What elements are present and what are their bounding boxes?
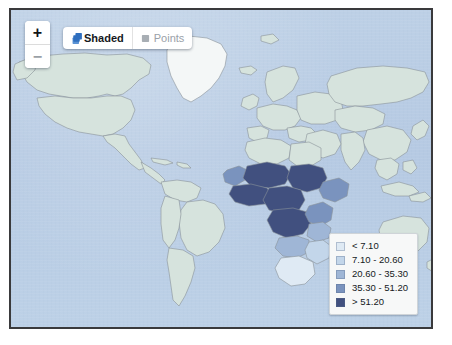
country-central-america bbox=[141, 162, 165, 184]
region-drc-congo bbox=[267, 208, 311, 238]
legend-row: < 7.10 bbox=[336, 239, 408, 253]
legend-row: 35.30 - 51.20 bbox=[336, 281, 408, 295]
zoom-in-button[interactable]: + bbox=[25, 21, 50, 45]
legend-swatch bbox=[336, 242, 345, 251]
country-peru-bolivia bbox=[161, 196, 181, 248]
map-frame: + − Shaded Points bbox=[9, 8, 433, 329]
legend-row: > 51.20 bbox=[336, 295, 408, 309]
legend-label: 20.60 - 35.30 bbox=[352, 269, 408, 279]
zoom-control[interactable]: + − bbox=[25, 21, 50, 68]
legend-label: 35.30 - 51.20 bbox=[352, 283, 408, 293]
country-morocco-algeria bbox=[245, 138, 291, 164]
island-iceland bbox=[239, 66, 257, 75]
legend-row: 7.10 - 20.60 bbox=[336, 253, 408, 267]
island-philippines bbox=[403, 160, 417, 174]
tab-points-label: Points bbox=[154, 32, 185, 44]
country-uk-ireland bbox=[241, 94, 259, 110]
country-libya-egypt bbox=[289, 142, 321, 166]
country-russia bbox=[327, 66, 429, 106]
country-brazil bbox=[179, 200, 225, 256]
region-southern-africa bbox=[275, 256, 315, 286]
country-argentina-chile bbox=[167, 248, 195, 306]
island-japan bbox=[411, 120, 429, 140]
legend-label: < 7.10 bbox=[352, 241, 379, 251]
island-cuba bbox=[151, 158, 173, 165]
region-tanzania bbox=[307, 222, 331, 242]
tab-points[interactable]: Points bbox=[132, 27, 193, 49]
island-caribbean bbox=[177, 162, 191, 168]
tab-shaded[interactable]: Shaded bbox=[63, 27, 132, 49]
country-india bbox=[341, 132, 365, 170]
shaded-squares-icon bbox=[73, 35, 79, 41]
country-usa bbox=[37, 96, 135, 136]
legend-swatch bbox=[336, 270, 345, 279]
point-square-icon bbox=[142, 34, 149, 41]
layer-toggle[interactable]: Shaded Points bbox=[63, 27, 192, 49]
region-western-europe bbox=[257, 104, 301, 130]
country-china bbox=[363, 126, 411, 160]
region-angola-zambia bbox=[275, 236, 309, 258]
island-svalbard bbox=[261, 34, 279, 44]
region-scandinavia bbox=[265, 66, 299, 102]
legend-swatch bbox=[336, 256, 345, 265]
map-canvas[interactable]: + − Shaded Points bbox=[11, 10, 431, 327]
region-southeast-asia bbox=[375, 158, 399, 180]
legend-swatch bbox=[336, 298, 345, 307]
legend: < 7.10 7.10 - 20.60 20.60 - 35.30 35.30 … bbox=[329, 233, 418, 315]
screenshot-root: + − Shaded Points bbox=[0, 0, 452, 345]
island-new-zealand bbox=[427, 258, 431, 272]
minus-icon: − bbox=[33, 49, 42, 65]
zoom-out-button[interactable]: − bbox=[25, 45, 50, 68]
region-ethiopia-horn bbox=[319, 178, 349, 202]
tab-shaded-label: Shaded bbox=[84, 32, 124, 44]
legend-swatch bbox=[336, 284, 345, 293]
legend-label: > 51.20 bbox=[352, 297, 384, 307]
plus-icon: + bbox=[33, 25, 42, 41]
legend-row: 20.60 - 35.30 bbox=[336, 267, 408, 281]
country-mexico bbox=[103, 134, 145, 170]
legend-label: 7.10 - 20.60 bbox=[352, 255, 403, 265]
island-indonesia bbox=[381, 182, 419, 196]
